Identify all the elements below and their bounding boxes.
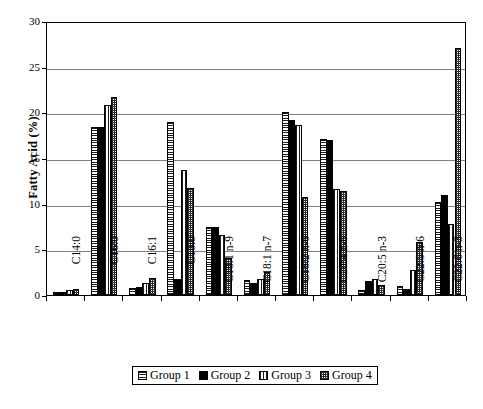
x-axis-tick-label: C22:6 n-3 [452,236,464,356]
legend-swatch-icon [138,371,147,380]
y-axis-tick-label: 15 [0,153,40,164]
x-axis-tick-mark [390,296,391,301]
bar [212,227,219,295]
y-axis-tick-label: 25 [0,62,40,73]
legend-label: Group 3 [271,369,311,382]
y-axis-tick-label: 10 [0,199,40,210]
x-axis-tick-mark [466,296,467,301]
legend-item-3[interactable]: Group 3 [259,369,311,382]
bar [59,292,66,295]
x-axis-tick-mark [46,296,47,301]
legend-item-2[interactable]: Group 2 [199,369,251,382]
bar [289,120,296,295]
y-axis-tick-label: 30 [0,16,40,27]
chart-legend: Group 1Group 2Group 3Group 4 [132,366,378,385]
bar [365,281,372,295]
x-axis-tick-label: C14:0 [70,236,82,356]
x-axis-tick-mark [428,296,429,301]
bar [129,288,136,295]
legend-item-1[interactable]: Group 1 [138,369,190,382]
x-axis-tick-mark [275,296,276,301]
x-axis-tick-mark [199,296,200,301]
bar [136,287,143,295]
legend-label: Group 2 [211,369,251,382]
x-axis-tick-mark [84,296,85,301]
bar [397,286,404,295]
x-axis-tick-label: C20:5 n-3 [376,236,388,356]
x-axis-tick-label: C16:0 [108,236,120,356]
x-axis-tick-mark [122,296,123,301]
bar-chart-figure: Fatty Acid (%) 051015202530 C14:0C16:0C1… [0,0,483,409]
legend-label: Group 4 [332,369,372,382]
x-axis-tick-mark [161,296,162,301]
x-axis-tick-label: C16:1 [146,236,158,356]
legend-item-4[interactable]: Group 4 [320,369,372,382]
x-axis-tick-label: C20:4 n-6 [337,236,349,356]
bar [320,139,327,295]
legend-swatch-icon [320,371,329,380]
bar [441,195,448,295]
bar [250,283,257,295]
bar [327,140,334,295]
x-axis-tick-mark [351,296,352,301]
y-axis-tick-label: 20 [0,107,40,118]
bar [358,290,365,295]
y-axis-tick-label: 0 [0,290,40,301]
x-axis-tick-label: C18:2 n-6 [299,236,311,356]
bar [244,280,251,295]
x-axis-tick-label: C18:1 n-9 [223,236,235,356]
bar [91,127,98,295]
legend-swatch-icon [259,371,268,380]
bar [435,202,442,295]
x-axis-tick-label: C22:5 n-6 [414,236,426,356]
y-axis-tick-label: 5 [0,244,40,255]
bar [167,122,174,295]
x-axis-tick-mark [237,296,238,301]
bar [403,289,410,295]
bar [53,292,60,295]
x-axis-tick-label: C18:1 n-7 [261,236,273,356]
bar [98,127,105,295]
x-axis-tick-label: C18:0 [185,236,197,356]
bar [174,279,181,295]
bar [206,227,213,295]
legend-label: Group 1 [150,369,190,382]
bar [282,112,289,295]
x-axis-tick-mark [313,296,314,301]
legend-swatch-icon [199,371,208,380]
